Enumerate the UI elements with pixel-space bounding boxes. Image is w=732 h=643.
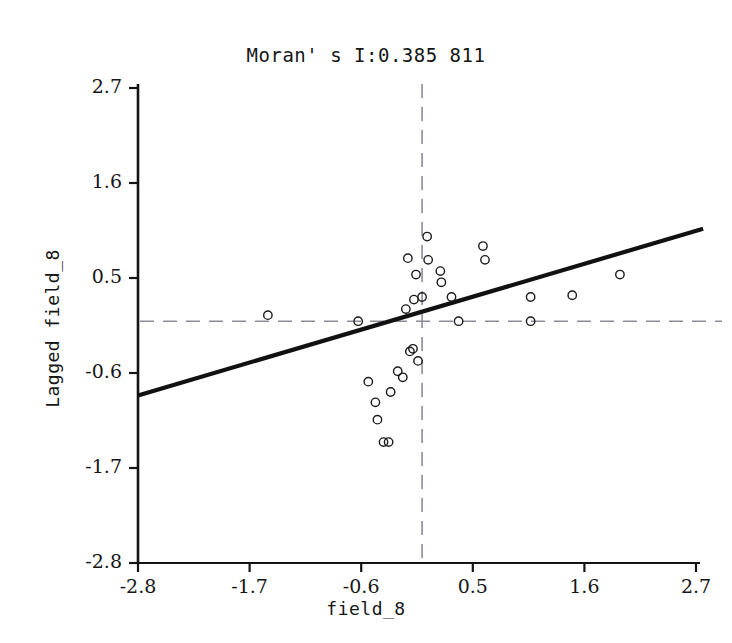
data-point xyxy=(414,357,422,365)
data-point xyxy=(481,256,489,264)
x-tick-label: -2.8 xyxy=(98,575,178,597)
data-point xyxy=(423,232,431,240)
x-tick-label: 0.5 xyxy=(433,575,513,597)
data-point xyxy=(479,242,487,250)
data-points xyxy=(264,232,624,446)
data-point xyxy=(264,311,272,319)
data-point xyxy=(402,305,410,313)
data-point xyxy=(616,270,624,278)
data-point xyxy=(447,293,455,301)
y-tick-label: 1.6 xyxy=(42,170,122,192)
axes xyxy=(129,84,700,572)
moran-scatterplot: Moran' s I:0.385 811 2.71.60.5-0.6-1.7-2… xyxy=(0,0,732,643)
y-axis-title: Lagged field_8 xyxy=(42,199,63,459)
data-point xyxy=(371,398,379,406)
data-point xyxy=(399,373,407,381)
y-tick-label: -2.8 xyxy=(42,550,122,572)
x-tick-label: 1.6 xyxy=(544,575,624,597)
data-point xyxy=(404,254,412,262)
data-point xyxy=(568,291,576,299)
y-tick-label: 2.7 xyxy=(42,75,122,97)
data-point xyxy=(424,256,432,264)
x-tick-label: -0.6 xyxy=(321,575,401,597)
regression-line xyxy=(138,229,703,396)
data-point xyxy=(454,317,462,325)
x-axis-title: field_8 xyxy=(0,598,732,619)
data-point xyxy=(410,295,418,303)
data-point xyxy=(364,377,372,385)
data-point xyxy=(384,438,392,446)
data-point xyxy=(526,293,534,301)
data-point xyxy=(437,278,445,286)
x-tick-label: 2.7 xyxy=(656,575,732,597)
x-tick-label: -1.7 xyxy=(210,575,290,597)
reference-lines xyxy=(140,84,722,561)
data-point xyxy=(412,270,420,278)
data-point xyxy=(386,388,394,396)
data-point xyxy=(373,415,381,423)
data-point xyxy=(436,267,444,275)
